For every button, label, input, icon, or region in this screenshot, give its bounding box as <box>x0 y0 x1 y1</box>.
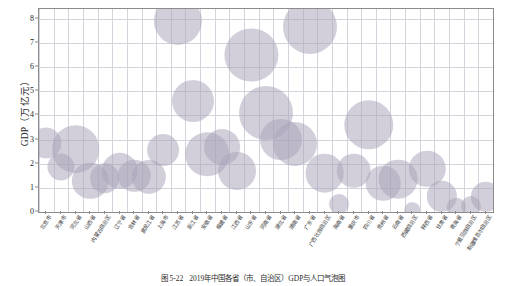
x-tick-mark <box>353 211 354 214</box>
plot-area <box>38 8 494 213</box>
bubble-marker <box>405 202 421 213</box>
bubble-chart-figure: GDP（万亿元） 012345678 北京市天津市河北省山西省内蒙古自治区辽宁省… <box>0 0 506 286</box>
y-tick-label: 5 <box>30 86 34 95</box>
x-tick-label: 湖北省 <box>275 215 288 231</box>
gridline-vertical <box>68 9 69 212</box>
x-tick-label: 辽宁省 <box>114 215 127 231</box>
x-tick-label: 湖南省 <box>289 215 302 231</box>
x-tick-mark <box>192 211 193 214</box>
x-tick-label: 安徽省 <box>201 215 214 231</box>
x-tick-label: 海南省 <box>333 215 346 231</box>
gridline-vertical <box>478 9 479 212</box>
y-tick-mark <box>35 211 38 212</box>
x-tick-label: 山东省 <box>245 215 258 231</box>
y-tick-mark <box>35 162 38 163</box>
x-tick-label: 江西省 <box>231 215 244 231</box>
x-tick-mark <box>221 211 222 214</box>
x-tick-mark <box>441 211 442 214</box>
y-tick-label: 8 <box>30 13 34 22</box>
x-tick-mark <box>368 211 369 214</box>
x-tick-label: 上海市 <box>158 215 171 231</box>
x-tick-label: 黑龙江省 <box>140 215 155 235</box>
y-tick-label: 1 <box>30 182 34 191</box>
y-tick-mark <box>35 186 38 187</box>
x-tick-mark <box>280 211 281 214</box>
gridline-horizontal <box>39 212 493 213</box>
bubble-marker <box>329 194 349 213</box>
x-tick-label: 广东省 <box>304 215 317 231</box>
y-tick-mark <box>35 138 38 139</box>
x-tick-mark <box>324 211 325 214</box>
y-tick-mark <box>35 41 38 42</box>
x-tick-mark <box>470 211 471 214</box>
x-tick-label: 四川省 <box>363 215 376 231</box>
bubble-marker <box>283 8 337 54</box>
y-tick-mark <box>35 66 38 67</box>
x-tick-mark <box>177 211 178 214</box>
gridline-horizontal <box>39 19 493 20</box>
x-tick-label: 吉林省 <box>128 215 141 231</box>
x-tick-mark <box>60 211 61 214</box>
x-tick-mark <box>485 211 486 214</box>
gridline-vertical <box>39 9 40 212</box>
x-tick-mark <box>104 211 105 214</box>
x-tick-label: 甘肃省 <box>436 215 449 231</box>
x-tick-label: 天津市 <box>55 215 68 231</box>
gridline-vertical <box>54 9 55 212</box>
x-tick-mark <box>382 211 383 214</box>
x-tick-label: 山西省 <box>84 215 97 231</box>
bubble-marker <box>344 100 393 149</box>
x-tick-label: 江苏省 <box>172 215 185 231</box>
x-tick-mark <box>426 211 427 214</box>
y-tick-mark <box>35 114 38 115</box>
bubble-marker <box>148 134 180 166</box>
x-tick-mark <box>309 211 310 214</box>
x-tick-label: 河南省 <box>260 215 273 231</box>
gridline-vertical <box>464 9 465 212</box>
x-tick-mark <box>338 211 339 214</box>
x-tick-label: 青海省 <box>450 215 463 231</box>
y-tick-label: 2 <box>30 158 34 167</box>
y-tick-label: 6 <box>30 62 34 71</box>
gridline-vertical <box>449 9 450 212</box>
x-tick-label: 河北省 <box>70 215 83 231</box>
y-tick-label: 7 <box>30 37 34 46</box>
y-axis-title: GDP（万亿元） <box>17 51 31 171</box>
x-tick-label: 重庆市 <box>348 215 361 231</box>
x-tick-mark <box>397 211 398 214</box>
bubble-marker <box>225 28 278 81</box>
bubble-marker <box>172 80 214 122</box>
x-tick-mark <box>265 211 266 214</box>
x-tick-label: 浙江省 <box>187 215 200 231</box>
y-tick-mark <box>35 90 38 91</box>
caption-number: 图 5-22 <box>161 274 184 283</box>
x-tick-label: 陕西省 <box>421 215 434 231</box>
gridline-vertical <box>493 9 494 212</box>
x-tick-mark <box>119 211 120 214</box>
x-tick-label: 贵州省 <box>377 215 390 231</box>
figure-caption: 图 5-222019年中国各省（市、自治区）GDP与人口气泡图 <box>0 272 506 283</box>
caption-text: 2019年中国各省（市、自治区）GDP与人口气泡图 <box>189 274 345 283</box>
x-tick-label: 云南省 <box>392 215 405 231</box>
y-tick-label: 3 <box>30 134 34 143</box>
x-tick-mark <box>148 211 149 214</box>
gridline-vertical <box>215 9 216 212</box>
x-tick-mark <box>89 211 90 214</box>
x-tick-label: 北京市 <box>40 215 53 231</box>
x-tick-mark <box>236 211 237 214</box>
bubble-marker <box>154 8 202 45</box>
x-tick-mark <box>75 211 76 214</box>
x-tick-label: 福建省 <box>216 215 229 231</box>
y-tick-label: 4 <box>30 110 34 119</box>
bubble-marker <box>218 152 256 190</box>
y-tick-label: 0 <box>30 207 34 216</box>
y-tick-mark <box>35 17 38 18</box>
x-tick-mark <box>133 211 134 214</box>
